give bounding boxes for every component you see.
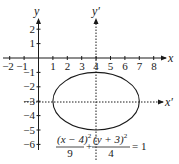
svg-text:3: 3 bbox=[79, 60, 85, 72]
svg-text:7: 7 bbox=[137, 60, 143, 72]
plus-sign: + bbox=[86, 140, 92, 152]
svg-text:−6: −6 bbox=[23, 138, 35, 150]
y-prime-axis-label: y′ bbox=[91, 4, 100, 18]
svg-text:1: 1 bbox=[30, 37, 36, 49]
y-tick-labels: 2 1 −1 −2 −3 −4 −5 −6 bbox=[23, 23, 35, 151]
svg-text:−1: −1 bbox=[23, 66, 35, 78]
svg-text:2: 2 bbox=[65, 60, 71, 72]
svg-text:4: 4 bbox=[93, 60, 99, 72]
svg-text:(y + 3)2: (y + 3)2 bbox=[93, 132, 128, 146]
term2-exponent: 2 bbox=[124, 132, 128, 140]
svg-text:−4: −4 bbox=[23, 109, 35, 121]
equals-one: = 1 bbox=[132, 140, 146, 152]
x-axis-label: x bbox=[167, 51, 174, 65]
svg-text:8: 8 bbox=[151, 60, 157, 72]
term2-denominator: 4 bbox=[108, 147, 114, 159]
svg-text:6: 6 bbox=[122, 60, 128, 72]
y-axis-label: y bbox=[33, 4, 40, 18]
term2-numerator: (y + 3) bbox=[93, 133, 124, 146]
ellipse-equation: (x − 4)2 9 + (y + 3)2 4 = 1 bbox=[56, 132, 146, 159]
svg-text:1: 1 bbox=[50, 60, 56, 72]
term1-denominator: 9 bbox=[67, 147, 73, 159]
x-prime-axis-label: x′ bbox=[164, 95, 173, 109]
ellipse-diagram: x y y′ x′ −2 −1 1 2 3 4 bbox=[0, 0, 179, 164]
svg-text:5: 5 bbox=[108, 60, 114, 72]
term1-exponent: 2 bbox=[88, 132, 92, 140]
svg-text:−2: −2 bbox=[2, 60, 14, 72]
svg-text:−2: −2 bbox=[23, 80, 35, 92]
svg-text:2: 2 bbox=[30, 23, 36, 35]
svg-text:−3: −3 bbox=[23, 95, 35, 107]
term1-numerator: (x − 4) bbox=[57, 133, 88, 146]
svg-text:−5: −5 bbox=[23, 124, 35, 136]
